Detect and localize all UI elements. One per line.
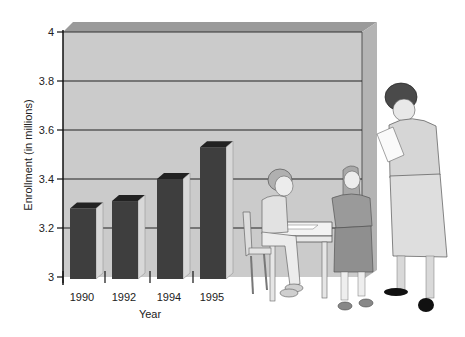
bar-side-face <box>138 195 145 279</box>
bar-side-face <box>96 202 103 279</box>
bar-1995 <box>200 141 233 279</box>
bar-front-face <box>112 201 138 279</box>
teacher <box>377 83 447 312</box>
x-tick-label: 1995 <box>200 291 224 303</box>
y-tick-label: 3.8 <box>39 75 54 87</box>
bar-1990 <box>70 202 103 279</box>
y-tick-label: 4 <box>48 26 54 38</box>
x-tick-label: 1990 <box>70 291 94 303</box>
bar-front-face <box>157 179 183 279</box>
bar-side-face <box>226 141 233 279</box>
x-axis-title: Year <box>139 308 162 320</box>
x-tick-label: 1994 <box>157 291 181 303</box>
panel-top-face <box>63 22 377 32</box>
y-tick-label: 3 <box>48 271 54 283</box>
bar-1994 <box>157 173 190 279</box>
y-axis: 33.23.43.63.84 <box>39 26 63 285</box>
x-tick-label: 1992 <box>112 291 136 303</box>
y-tick-label: 3.4 <box>39 173 54 185</box>
bar-front-face <box>70 208 96 279</box>
y-tick-label: 3.2 <box>39 222 54 234</box>
bar-side-face <box>183 173 190 279</box>
enrollment-bar-chart: 33.23.43.63.84 1990199219941995 Year Enr… <box>0 0 465 337</box>
bar-1992 <box>112 195 145 279</box>
y-axis-title: Enrollment (in millions) <box>22 99 34 210</box>
y-tick-label: 3.6 <box>39 124 54 136</box>
bar-front-face <box>200 147 226 279</box>
